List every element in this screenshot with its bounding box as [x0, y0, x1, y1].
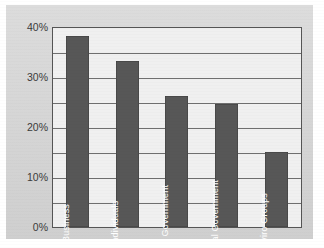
bar-label-enviro-groups: Enviro Groups: [253, 193, 276, 248]
y-tick-label-40: 40%: [27, 21, 48, 33]
bar-individuals[interactable]: Individuals: [116, 61, 139, 227]
bar-series: Business Individuals State Government Fe…: [53, 28, 301, 227]
bar-slot-federal-government: Federal Government: [202, 28, 252, 227]
y-tick-label-20: 20%: [27, 121, 48, 133]
bar-label-state-government: State Government: [154, 185, 177, 248]
bar-federal-government[interactable]: Federal Government: [215, 104, 238, 227]
bar-state-government[interactable]: State Government: [165, 96, 188, 227]
bar-label-federal-government: Federal Government: [204, 180, 227, 248]
bar-slot-enviro-groups: Enviro Groups: [251, 28, 301, 227]
y-tick-label-10: 10%: [27, 171, 48, 183]
y-axis-tick-labels: 40% 30% 20% 10% 0%: [0, 0, 52, 248]
y-tick-label-30: 30%: [27, 71, 48, 83]
bar-slot-state-government: State Government: [152, 28, 202, 227]
y-tick-label-0: 0%: [33, 221, 48, 233]
plot-area: Business Individuals State Government Fe…: [52, 27, 302, 228]
bar-enviro-groups[interactable]: Enviro Groups: [265, 152, 288, 227]
chart-figure: 40% 30% 20% 10% 0% Business Individuals: [0, 0, 324, 248]
bar-slot-business: Business: [53, 28, 103, 227]
bar-business[interactable]: Business: [66, 36, 89, 227]
bar-label-business: Business: [55, 204, 78, 242]
bar-slot-individuals: Individuals: [103, 28, 153, 227]
bar-label-individuals: Individuals: [104, 201, 127, 246]
